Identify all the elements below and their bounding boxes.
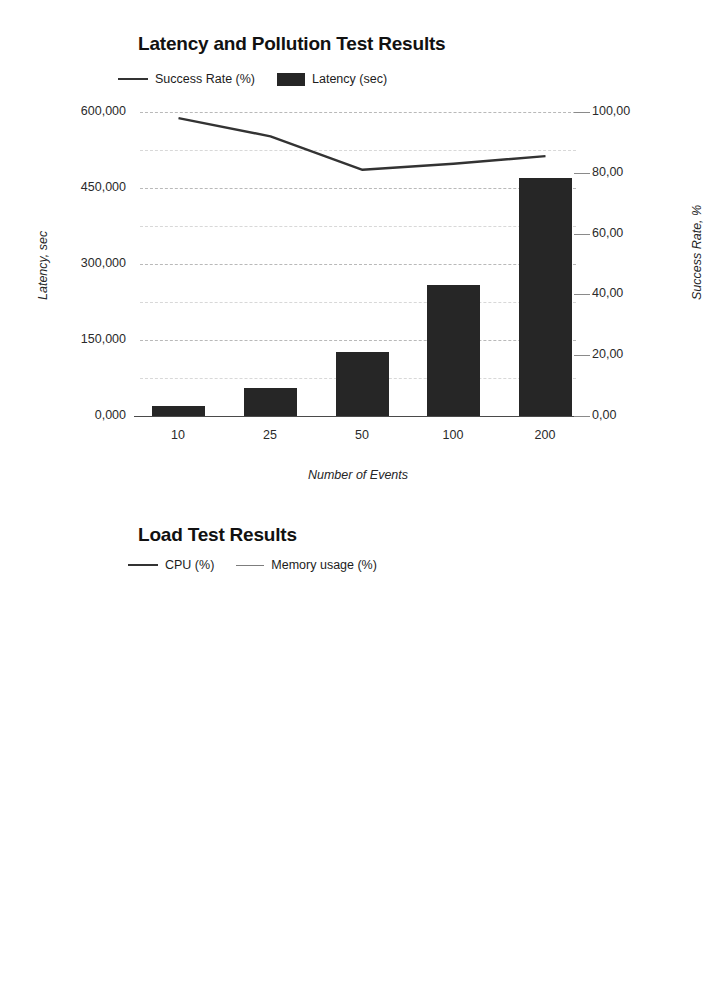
ytick-right-label-60: 60,00 (592, 226, 623, 240)
xtick-label-50: 50 (355, 428, 369, 442)
xtick-label-10: 10 (171, 428, 185, 442)
ytick-label-150000: 150,000 (81, 332, 126, 346)
chart1-x-axis-line (134, 416, 584, 417)
ytick-dash-r-80 (574, 173, 590, 174)
chart1-legend: Success Rate (%) Latency (sec) (118, 72, 387, 86)
xtick-label-200: 200 (535, 428, 556, 442)
line-marker-thin-icon (236, 565, 264, 566)
ytick-label-600000: 600,000 (81, 104, 126, 118)
ytick-right-label-20: 20,00 (592, 347, 623, 361)
chart1-y-axis-title: Latency, sec (36, 231, 50, 300)
chart2-title: Load Test Results (138, 524, 297, 546)
latency-pollution-chart: Latency and Pollution Test Results Succe… (0, 0, 726, 500)
legend-item-success-rate: Success Rate (%) (118, 72, 255, 86)
legend-item-latency: Latency (sec) (277, 72, 387, 86)
ytick-right-label-0: 0,00 (592, 408, 616, 422)
chart1-x-axis-title: Number of Events (308, 468, 408, 482)
ytick-dash-r-0 (574, 416, 590, 417)
xtick-label-25: 25 (263, 428, 277, 442)
bar-swatch-icon (277, 73, 305, 86)
chart2-legend: CPU (%) Memory usage (%) (128, 558, 377, 572)
ytick-dash-r-100 (574, 112, 590, 113)
legend-label-memory: Memory usage (%) (271, 558, 377, 572)
load-test-chart: Load Test Results CPU (%) Memory usage (… (0, 500, 726, 985)
legend-label-success-rate: Success Rate (%) (155, 72, 255, 86)
ytick-right-label-40: 40,00 (592, 286, 623, 300)
ytick-dash-r-40 (574, 294, 590, 295)
ytick-label-0: 0,000 (95, 408, 126, 422)
chart1-y-axis-right-title: Success Rate, % (690, 205, 704, 300)
legend-item-cpu: CPU (%) (128, 558, 214, 572)
legend-label-latency: Latency (sec) (312, 72, 387, 86)
chart1-title: Latency and Pollution Test Results (138, 33, 445, 55)
ytick-label-300000: 300,000 (81, 256, 126, 270)
ytick-right-label-80: 80,00 (592, 165, 623, 179)
line-marker-icon (128, 564, 158, 566)
ytick-label-450000: 450,000 (81, 180, 126, 194)
chart1-plot-area: 600,000 450,000 300,000 150,000 0,000 10… (140, 112, 576, 416)
success-rate-line (140, 112, 576, 416)
legend-item-memory: Memory usage (%) (236, 558, 377, 572)
ytick-dash-r-20 (574, 355, 590, 356)
ytick-dash-r-60 (574, 234, 590, 235)
ytick-right-label-100: 100,00 (592, 104, 630, 118)
xtick-label-100: 100 (443, 428, 464, 442)
line-marker-icon (118, 78, 148, 80)
legend-label-cpu: CPU (%) (165, 558, 214, 572)
